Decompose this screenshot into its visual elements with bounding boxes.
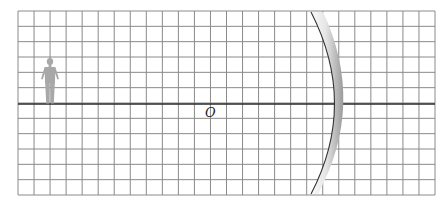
grid xyxy=(18,11,435,195)
pole-label-o: O xyxy=(205,106,216,119)
diagram-canvas xyxy=(0,0,444,208)
optics-diagram: O xyxy=(0,0,444,208)
